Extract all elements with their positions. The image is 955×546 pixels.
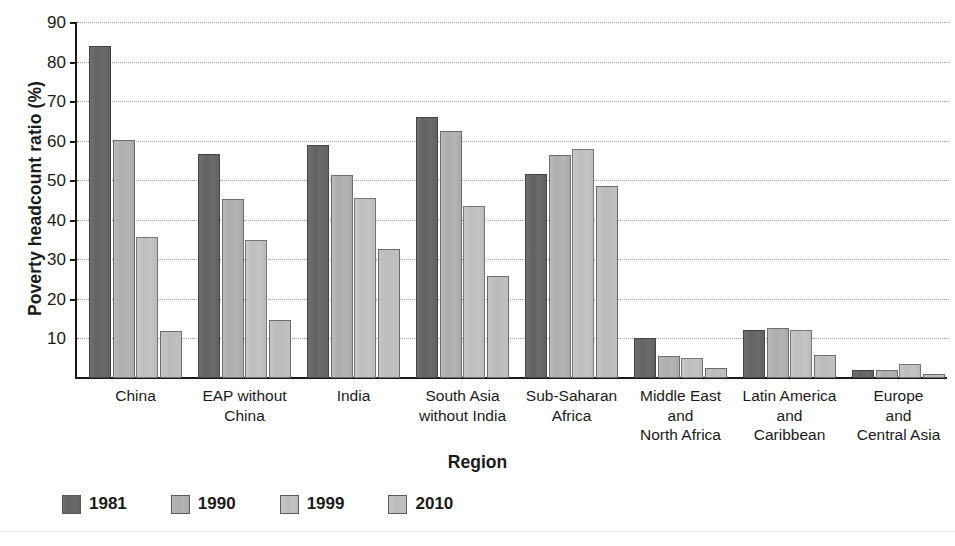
x-axis-tick-label-line: Europe (829, 386, 955, 406)
bar (899, 364, 921, 378)
bar-group (416, 22, 509, 378)
y-axis-tick-mark (70, 180, 77, 182)
x-axis-title: Region (0, 452, 955, 473)
bar (681, 358, 703, 378)
y-axis-tick-label: 20 (8, 291, 66, 308)
bar-chart-figure: Poverty headcount ratio (%) 102030405060… (0, 0, 955, 546)
y-axis-tick-mark (70, 220, 77, 222)
y-axis-tick-label: 80 (8, 54, 66, 71)
x-axis-tick-label: EuropeandCentral Asia (829, 386, 955, 445)
legend-item-1990[interactable]: 1990 (171, 494, 236, 514)
legend-swatch-icon (62, 495, 81, 514)
bar (113, 140, 135, 378)
legend-swatch-icon (280, 495, 299, 514)
bar (440, 131, 462, 378)
legend-item-2010[interactable]: 2010 (388, 494, 453, 514)
bar (198, 154, 220, 378)
bar (463, 206, 485, 378)
legend-label: 2010 (415, 494, 453, 514)
bar (487, 276, 509, 378)
bar (596, 186, 618, 378)
bar-group (525, 22, 618, 378)
bar-group (634, 22, 727, 378)
bar (705, 368, 727, 378)
legend-item-1981[interactable]: 1981 (62, 494, 127, 514)
legend-item-1999[interactable]: 1999 (280, 494, 345, 514)
y-axis-tick-label: 10 (8, 330, 66, 347)
bar (923, 374, 945, 378)
chart-legend: 1981199019992010 (62, 492, 497, 516)
bar (572, 149, 594, 378)
bar (416, 117, 438, 378)
bar (136, 237, 158, 378)
y-axis-tick-mark (70, 259, 77, 261)
bar (743, 330, 765, 378)
bar (222, 199, 244, 378)
bar (790, 330, 812, 378)
bar-group (852, 22, 945, 378)
bar (549, 155, 571, 378)
x-axis-tick-label-line: Central Asia (829, 425, 955, 445)
footer-divider (0, 531, 955, 532)
y-axis-tick-mark (70, 141, 77, 143)
x-axis-tick-label-line: and (829, 406, 955, 426)
y-axis-tick-label: 70 (8, 93, 66, 110)
legend-swatch-icon (388, 495, 407, 514)
y-axis-tick-label: 90 (8, 14, 66, 31)
legend-swatch-icon (171, 495, 190, 514)
legend-label: 1981 (89, 494, 127, 514)
x-axis-tick-label-line: China (175, 406, 315, 426)
bar (354, 198, 376, 378)
bar-group (89, 22, 182, 378)
y-axis-tick-label: 30 (8, 251, 66, 268)
bar (525, 174, 547, 378)
bar (814, 355, 836, 378)
bar-group (307, 22, 400, 378)
y-axis-tick-label: 50 (8, 172, 66, 189)
bar (634, 338, 656, 378)
legend-label: 1999 (307, 494, 345, 514)
bar (245, 240, 267, 378)
y-axis-tick-mark (70, 299, 77, 301)
bar (269, 320, 291, 378)
bar-group (743, 22, 836, 378)
y-axis-tick-label: 60 (8, 133, 66, 150)
bar (852, 370, 874, 378)
bar-group (198, 22, 291, 378)
y-axis-tick-mark (70, 62, 77, 64)
bar (378, 249, 400, 378)
y-axis-tick-label: 40 (8, 212, 66, 229)
bar (307, 145, 329, 378)
bar (160, 331, 182, 378)
legend-label: 1990 (198, 494, 236, 514)
bar (767, 328, 789, 378)
bar (331, 175, 353, 378)
y-axis-tick-mark (70, 101, 77, 103)
bar (89, 46, 111, 378)
bar (876, 370, 898, 378)
bar (658, 356, 680, 378)
y-axis-tick-mark (70, 22, 77, 24)
